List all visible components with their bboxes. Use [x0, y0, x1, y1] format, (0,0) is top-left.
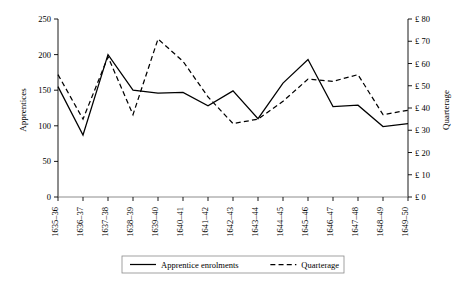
left-tick-label: 200: [38, 50, 51, 60]
right-axis: £ 0£ 10£ 20£ 30£ 40£ 50£ 60£ 70£ 80: [408, 14, 430, 202]
right-tick-label: £ 60: [415, 59, 430, 69]
line-chart: Apprentices Quarterage 050100150200250 £…: [0, 0, 466, 286]
x-tick-label: 1635–36: [50, 207, 60, 237]
right-tick-label: £ 50: [415, 81, 430, 91]
right-axis-title: Quarterage: [441, 90, 451, 130]
x-tick-label: 1643–44: [250, 206, 260, 237]
right-tick-label: £ 20: [415, 148, 430, 158]
x-tick-label: 1639–40: [150, 207, 160, 237]
left-tick-label: 0: [47, 192, 51, 202]
right-tick-label: £ 80: [415, 14, 430, 24]
x-tick-label: 1637–38: [100, 207, 110, 237]
chart-legend: Apprentice enrolmentsQuarterage: [122, 256, 344, 273]
right-tick-label: £ 10: [415, 170, 430, 180]
x-tick-label: 1649–50: [400, 207, 410, 237]
left-axis-title: Apprentices: [18, 88, 28, 132]
right-tick-label: £ 40: [415, 103, 430, 113]
x-tick-label: 1647–48: [350, 207, 360, 237]
left-tick-label: 250: [38, 14, 51, 24]
data-series-group: [58, 39, 408, 135]
left-tick-label: 150: [38, 85, 51, 95]
x-tick-label: 1645–46: [300, 207, 310, 237]
x-tick-label: 1646–47: [325, 207, 335, 237]
right-tick-label: £ 70: [415, 36, 430, 46]
legend-label-2: Quarterage: [301, 260, 339, 270]
x-tick-label: 1636–37: [75, 207, 85, 237]
x-axis-ticks: [58, 197, 408, 201]
left-tick-label: 50: [43, 156, 52, 166]
left-tick-label: 100: [38, 121, 51, 131]
right-tick-label: £ 30: [415, 125, 430, 135]
chart-canvas: Apprentices Quarterage 050100150200250 £…: [0, 0, 466, 286]
x-tick-label: 1641–42: [200, 207, 210, 237]
x-tick-label: 1644–45: [275, 207, 285, 237]
left-axis: 050100150200250: [38, 14, 58, 202]
x-tick-label: 1640–41: [175, 207, 185, 237]
x-tick-label: 1648–49: [375, 207, 385, 237]
x-tick-label: 1638–39: [125, 207, 135, 237]
series-line-2: [58, 39, 408, 124]
right-tick-label: £ 0: [415, 192, 426, 202]
x-axis-labels: 1635–361636–371637–381638–391639–401640–…: [50, 206, 410, 237]
x-tick-label: 1642–43: [225, 207, 235, 237]
legend-label-1: Apprentice enrolments: [161, 260, 239, 270]
